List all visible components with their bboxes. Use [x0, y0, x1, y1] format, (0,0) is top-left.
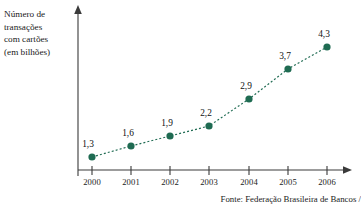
data-label: 1,3 — [82, 139, 94, 149]
x-tick-label: 2006 — [318, 177, 336, 187]
data-point-marker — [245, 95, 252, 102]
x-tick-label: 2000 — [83, 177, 101, 187]
series-line — [92, 47, 327, 157]
data-point-marker — [284, 65, 291, 72]
series-markers — [88, 43, 330, 160]
source-caption: Fonte: Federação Brasileira de Bancos / — [221, 194, 361, 205]
x-tick-label: 2005 — [279, 177, 297, 187]
x-axis — [78, 166, 352, 174]
x-tick-label: 2001 — [122, 177, 140, 187]
data-point-marker — [323, 43, 330, 50]
data-point-marker — [88, 153, 95, 160]
data-label: 1,6 — [122, 128, 134, 138]
data-label: 2,2 — [200, 108, 212, 118]
data-point-marker — [205, 122, 212, 129]
y-axis — [74, 5, 82, 176]
x-tick-label: 2004 — [240, 177, 258, 187]
x-tick-label: 2003 — [200, 177, 218, 187]
data-point-marker — [127, 142, 134, 149]
data-label: 1,9 — [161, 118, 173, 128]
data-point-marker — [166, 132, 173, 139]
data-label: 4,3 — [318, 29, 330, 39]
data-label: 2,9 — [240, 81, 252, 91]
x-tick-label: 2002 — [161, 177, 179, 187]
data-label: 3,7 — [279, 51, 291, 61]
